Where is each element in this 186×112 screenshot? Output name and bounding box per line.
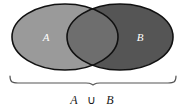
underbrace <box>10 76 176 85</box>
venn-diagram-canvas: A B A ∪ B <box>0 0 186 112</box>
caption-right-operand: B <box>106 93 114 107</box>
venn-diagram-figure: A B A ∪ B <box>0 0 186 112</box>
set-a-label: A <box>42 31 50 43</box>
caption-group: A ∪ B <box>69 93 114 107</box>
caption-left-operand: A <box>69 93 78 107</box>
set-b-label: B <box>137 31 144 43</box>
caption-union-operator: ∪ <box>87 93 96 107</box>
